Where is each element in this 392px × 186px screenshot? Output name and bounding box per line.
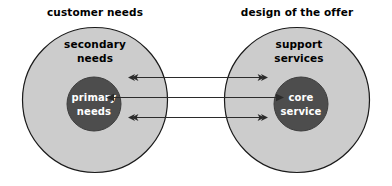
support-services-label-line2: services <box>274 52 323 64</box>
support-services-label-line1: support <box>276 38 323 50</box>
right-group-title: design of the offer <box>241 6 354 18</box>
core-service-label-line1: core <box>289 92 314 103</box>
diagram-canvas: customer needs secondary needs primary n… <box>0 0 392 186</box>
secondary-needs-label-line2: needs <box>77 52 113 64</box>
left-group: customer needs secondary needs primary n… <box>23 6 168 173</box>
right-group: design of the offer support services cor… <box>225 6 370 173</box>
concept-diagram: customer needs secondary needs primary n… <box>0 0 392 186</box>
left-group-title: customer needs <box>47 6 143 18</box>
core-service-label-line2: service <box>280 106 321 117</box>
primary-needs-circle[interactable] <box>67 77 121 131</box>
primary-needs-label-line2: needs <box>77 106 111 117</box>
secondary-needs-label-line1: secondary <box>64 38 126 50</box>
core-service-circle[interactable] <box>274 77 328 131</box>
